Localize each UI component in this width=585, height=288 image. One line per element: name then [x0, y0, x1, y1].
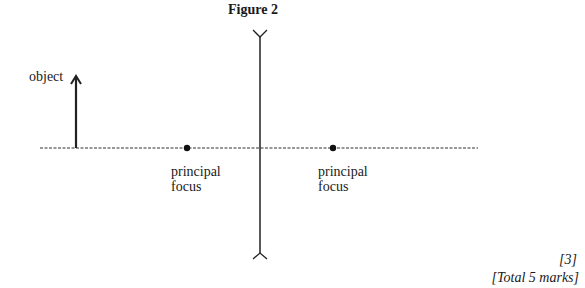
principal-focus-left-label: principal focus: [171, 164, 221, 194]
label-line: focus: [318, 179, 368, 194]
focus-point-left: [184, 145, 190, 151]
total-marks: [Total 5 marks]: [492, 270, 579, 286]
question-marks: [3]: [559, 252, 577, 268]
ray-diagram: [0, 0, 585, 288]
label-line: focus: [171, 179, 221, 194]
focus-point-right: [330, 145, 336, 151]
label-line: principal: [171, 164, 221, 179]
principal-focus-right-label: principal focus: [318, 164, 368, 194]
diverging-lens-icon: [253, 30, 267, 259]
object-arrow-icon: [71, 76, 81, 148]
label-line: principal: [318, 164, 368, 179]
